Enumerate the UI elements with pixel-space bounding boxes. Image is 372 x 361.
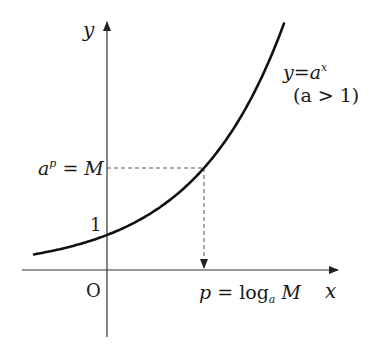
point-x-M: M [275,281,301,303]
equation-equals: = [294,61,310,83]
equation-lhs: y [283,61,294,83]
y-axis-label: y [83,20,94,40]
curve-equation-label: y=ax [283,63,327,82]
point-x-log: = log [211,281,269,303]
point-y-base: a [38,157,49,179]
equation-exponent: x [321,61,327,74]
graph-canvas [0,0,372,361]
point-x-p: p [199,281,211,303]
curve-condition-label: (a > 1) [293,86,359,105]
point-y-exponent: p [49,157,56,170]
point-x-base: a [269,293,276,306]
y-intercept-label: 1 [90,216,101,234]
origin-label: O [86,282,101,300]
x-axis-label: x [325,281,336,301]
exponential-curve [34,23,284,254]
point-x-label: p = loga M [199,283,301,302]
equation-base: a [310,61,321,83]
point-y-rest: = M [56,157,103,179]
point-y-label: ap = M [38,159,104,178]
